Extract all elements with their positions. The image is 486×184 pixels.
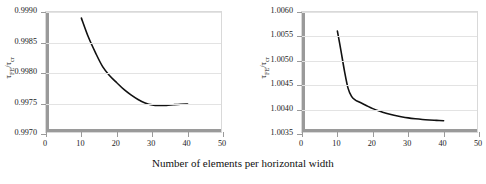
y-tick-label: 1.0035 — [252, 129, 293, 137]
y-tick-mark — [297, 36, 302, 37]
x-tick-mark — [444, 132, 445, 137]
x-tick-label: 10 — [326, 140, 346, 148]
y-tick-mark — [297, 110, 302, 111]
gridline — [46, 43, 221, 44]
x-tick-label: 0 — [291, 140, 311, 148]
y-tick-label: 0.9985 — [0, 38, 37, 46]
y-tick-label: 1.0055 — [252, 31, 293, 39]
y-tick-label: 0.9990 — [0, 7, 37, 15]
x-tick-label: 50 — [468, 140, 486, 148]
y-tick-mark — [297, 12, 302, 13]
gridline — [46, 12, 221, 13]
x-tick-label: 50 — [212, 140, 232, 148]
gridline — [46, 104, 221, 105]
x-tick-mark — [46, 132, 47, 137]
gridline — [46, 73, 221, 74]
x-tick-mark — [117, 132, 118, 137]
y-tick-label: 0.9970 — [0, 129, 37, 137]
y-axis-line-right — [302, 12, 305, 132]
x-axis-line-right — [302, 129, 477, 132]
y-tick-mark — [41, 104, 46, 105]
plot-area-right — [301, 11, 478, 133]
chart-panel-simple-juncture: τFE/τcr Simple juncture 0.99700.99750.99… — [0, 0, 243, 150]
y-tick-label: 0.9980 — [0, 68, 37, 76]
curve-svg-right — [302, 12, 479, 134]
x-tick-label: 40 — [177, 140, 197, 148]
y-tick-label: 1.0045 — [252, 80, 293, 88]
x-tick-mark — [223, 132, 224, 137]
y-tick-label: 1.0050 — [252, 56, 293, 64]
x-tick-mark — [188, 132, 189, 137]
x-tick-mark — [408, 132, 409, 137]
x-tick-label: 20 — [362, 140, 382, 148]
y-tick-mark — [41, 43, 46, 44]
x-axis-line-left — [46, 129, 221, 132]
y-tick-label: 1.0060 — [252, 7, 293, 15]
x-tick-mark — [373, 132, 374, 137]
gridline — [302, 61, 477, 62]
x-tick-label: 20 — [106, 140, 126, 148]
gridline — [302, 85, 477, 86]
y-axis-line-left — [46, 12, 49, 132]
x-tick-mark — [337, 132, 338, 137]
x-tick-label: 0 — [35, 140, 55, 148]
gridline — [302, 36, 477, 37]
x-axis-caption: Number of elements per horizontal width — [0, 157, 486, 169]
y-tick-mark — [297, 85, 302, 86]
y-tick-mark — [41, 73, 46, 74]
plot-area-left — [45, 11, 222, 133]
x-tick-label: 10 — [70, 140, 90, 148]
gridline — [302, 110, 477, 111]
x-tick-mark — [152, 132, 153, 137]
x-tick-label: 30 — [141, 140, 161, 148]
y-tick-mark — [297, 61, 302, 62]
x-tick-mark — [81, 132, 82, 137]
y-tick-label: 1.0040 — [252, 105, 293, 113]
y-tick-mark — [41, 12, 46, 13]
x-tick-label: 30 — [397, 140, 417, 148]
figure: τFE/τcr Simple juncture 0.99700.99750.99… — [0, 0, 486, 184]
gridline — [302, 12, 477, 13]
x-tick-mark — [302, 132, 303, 137]
y-tick-label: 0.9975 — [0, 99, 37, 107]
x-tick-mark — [479, 132, 480, 137]
x-tick-label: 40 — [433, 140, 453, 148]
chart-panel-fixed-juncture: τFE/τcr Fixed juncture 1.00351.00401.004… — [243, 0, 486, 150]
